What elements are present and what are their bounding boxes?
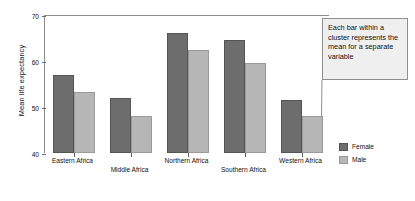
x-axis-tick-mark: [131, 153, 132, 157]
plot-area: 40506070: [44, 15, 329, 153]
legend-label: Female: [352, 143, 374, 150]
bar: [188, 50, 209, 153]
bar: [53, 75, 74, 153]
y-axis-tick-label: 60: [19, 59, 39, 66]
legend-label: Male: [352, 156, 366, 163]
y-axis-tick-mark: [42, 16, 46, 17]
y-axis-tick-mark: [42, 154, 46, 155]
bar: [224, 40, 245, 153]
chart-figure: Mean life expectancy 40506070 Each bar w…: [0, 0, 415, 201]
y-axis-tick-mark: [42, 108, 46, 109]
legend-swatch-female: [339, 143, 348, 151]
x-axis-category-label: Northern Africa: [165, 157, 209, 164]
x-axis-category-label: Western Africa: [279, 157, 322, 164]
y-axis-tick-label: 40: [19, 151, 39, 158]
callout-text: Each bar within a cluster represents the…: [328, 23, 402, 61]
y-axis-tick-mark: [42, 62, 46, 63]
bar: [74, 92, 95, 153]
bar: [281, 100, 302, 153]
bar: [302, 116, 323, 153]
y-axis-title: Mean life expectancy: [17, 16, 26, 146]
y-axis-tick-label: 50: [19, 105, 39, 112]
y-axis-tick-label: 70: [19, 13, 39, 20]
callout-box: Each bar within a cluster represents the…: [322, 18, 408, 80]
x-axis-category-label: Middle Africa: [111, 166, 149, 173]
chart-legend: FemaleMale: [339, 140, 374, 166]
legend-swatch-male: [339, 156, 348, 164]
bar: [167, 33, 188, 153]
plot-inner: 40506070: [45, 16, 329, 153]
x-axis-category-label: Southern Africa: [221, 166, 266, 173]
legend-item: Female: [339, 140, 374, 153]
bar: [245, 63, 266, 153]
bar: [131, 116, 152, 153]
legend-item: Male: [339, 153, 374, 166]
bar: [110, 98, 131, 153]
x-axis-category-label: Eastern Africa: [52, 157, 93, 164]
x-axis-tick-mark: [245, 153, 246, 157]
